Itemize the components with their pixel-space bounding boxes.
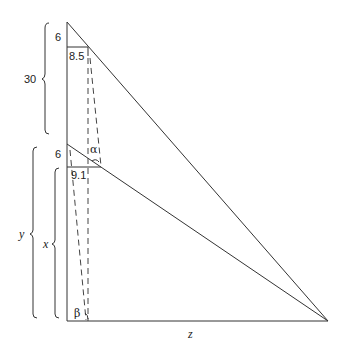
label-y: y xyxy=(18,227,25,241)
label-top-6: 6 xyxy=(55,31,61,43)
label-mid-6: 6 xyxy=(55,148,61,160)
label-z: z xyxy=(187,327,193,341)
triangle-diagram: 6 8.5 30 6 9.1 α β y x z xyxy=(0,0,346,349)
bracket-y xyxy=(30,147,37,318)
upper-hypotenuse xyxy=(67,22,328,321)
label-x: x xyxy=(42,237,49,251)
label-30: 30 xyxy=(24,73,36,85)
lower-hypotenuse xyxy=(67,144,328,321)
label-8-5: 8.5 xyxy=(69,50,84,62)
bracket-x xyxy=(52,168,59,318)
bracket-30 xyxy=(42,23,49,134)
label-beta: β xyxy=(74,307,80,320)
label-alpha: α xyxy=(90,143,98,156)
label-9-1: 9.1 xyxy=(71,169,86,181)
